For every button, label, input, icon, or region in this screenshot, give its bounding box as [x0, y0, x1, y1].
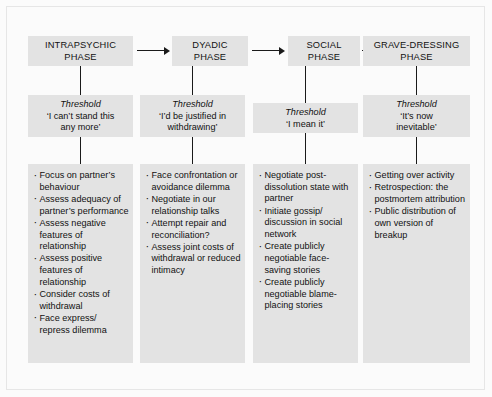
arrow-dyadic-to-social: [252, 46, 285, 55]
list-item: Assess negative features of relationship: [33, 218, 129, 253]
connector-social-threshold-to-items: [305, 133, 306, 164]
list-item: Create publicly negotiable blame-placing…: [258, 277, 354, 312]
threshold-quote-grave-dressing: ‘It’s now inevitable’: [365, 111, 468, 134]
content-box-social: Negotiate post-dissolution state with pa…: [253, 164, 358, 363]
phase-box-grave-dressing: GRAVE-DRESSING PHASE: [363, 36, 470, 66]
list-item: Face confrontation or avoidance dilemma: [145, 170, 241, 193]
threshold-quote-intrapsychic: ‘I can’t stand this any more’: [30, 111, 131, 134]
threshold-title-social: Threshold: [255, 107, 356, 119]
item-list-social: Negotiate post-dissolution state with pa…: [258, 170, 354, 312]
arrow-shaft: [252, 50, 279, 51]
threshold-box-intrapsychic: Threshold ‘I can’t stand this any more’: [28, 95, 133, 137]
list-item: Getting over activity: [368, 170, 466, 182]
list-item: Attempt repair and reconciliation?: [145, 218, 241, 241]
threshold-quote-dyadic: ‘I’d be justified in withdrawing’: [142, 111, 243, 134]
item-list-grave-dressing: Getting over activity Retrospection: the…: [368, 170, 466, 241]
phase-label-intrapsychic: INTRAPSYCHIC PHASE: [45, 39, 116, 63]
content-box-grave-dressing: Getting over activity Retrospection: the…: [363, 164, 470, 363]
threshold-title-dyadic: Threshold: [142, 99, 243, 111]
item-list-dyadic: Face confrontation or avoidance dilemma …: [145, 170, 241, 277]
phase-box-dyadic: DYADIC PHASE: [172, 36, 248, 66]
phase-label-grave-dressing: GRAVE-DRESSING PHASE: [374, 39, 460, 63]
connector-intrapsychic-threshold-to-items: [80, 137, 81, 164]
threshold-box-grave-dressing: Threshold ‘It’s now inevitable’: [363, 95, 470, 137]
threshold-title-grave-dressing: Threshold: [365, 99, 468, 111]
list-item: Public distribution of own version of br…: [368, 206, 466, 241]
list-item: Focus on partner’s behaviour: [33, 170, 129, 193]
list-item: Consider costs of withdrawal: [33, 289, 129, 312]
list-item: Retrospection: the postmortem attributio…: [368, 182, 466, 205]
list-item: Negotiate in our relationship talks: [145, 194, 241, 217]
arrow-head: [279, 47, 285, 55]
content-box-intrapsychic: Focus on partner’s behaviour Assess adeq…: [28, 164, 133, 363]
list-item: Assess positive features of relationship: [33, 253, 129, 288]
list-item: Assess adequacy of partner’s performance: [33, 194, 129, 217]
content-box-dyadic: Face confrontation or avoidance dilemma …: [140, 164, 245, 363]
connector-grave-dressing-phase-to-threshold: [416, 66, 417, 95]
phase-label-dyadic: DYADIC PHASE: [192, 39, 227, 63]
list-item: Face express/ repress dilemma: [33, 313, 129, 336]
diagram-canvas: INTRAPSYCHIC PHASE Threshold ‘I can’t st…: [0, 0, 492, 397]
connector-dyadic-phase-to-threshold: [192, 66, 193, 95]
phase-box-intrapsychic: INTRAPSYCHIC PHASE: [28, 36, 133, 66]
connector-social-phase-to-threshold: [305, 66, 306, 103]
connector-grave-dressing-threshold-to-items: [416, 137, 417, 164]
threshold-quote-social: ‘I mean it’: [255, 119, 356, 131]
connector-intrapsychic-phase-to-threshold: [80, 66, 81, 95]
phase-label-social: SOCIAL PHASE: [306, 39, 341, 63]
item-list-intrapsychic: Focus on partner’s behaviour Assess adeq…: [33, 170, 129, 336]
threshold-box-social: Threshold ‘I mean it’: [253, 103, 358, 133]
threshold-box-dyadic: Threshold ‘I’d be justified in withdrawi…: [140, 95, 245, 137]
threshold-title-intrapsychic: Threshold: [30, 99, 131, 111]
list-item: Create publicly negotiable face-saving s…: [258, 241, 354, 276]
connector-dyadic-threshold-to-items: [192, 137, 193, 164]
arrow-shaft: [137, 50, 164, 51]
list-item: Initiate gossip/ discussion in social ne…: [258, 206, 354, 241]
list-item: Assess joint costs of withdrawal or redu…: [145, 242, 241, 277]
list-item: Negotiate post-dissolution state with pa…: [258, 170, 354, 205]
phase-box-social: SOCIAL PHASE: [288, 36, 360, 66]
arrow-intrapsychic-to-dyadic: [137, 46, 170, 55]
arrow-head: [164, 47, 170, 55]
